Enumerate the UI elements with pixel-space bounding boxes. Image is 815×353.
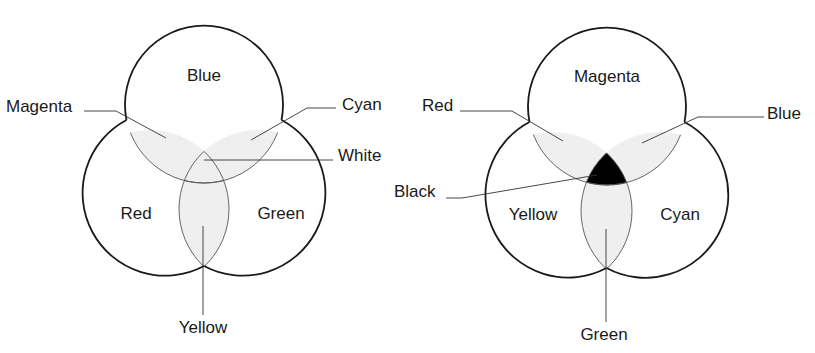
label-magenta-primary: Magenta [574, 67, 641, 86]
label-green: Green [257, 204, 304, 223]
label-yellow: Yellow [179, 318, 228, 337]
label-red: Red [120, 204, 151, 223]
label-red: Red [422, 96, 453, 115]
label-black: Black [394, 182, 436, 201]
label-yellow-primary: Yellow [509, 205, 558, 224]
subtractive-diagram: Magenta Yellow Cyan Red Blue Black Green [394, 27, 801, 344]
label-blue: Blue [187, 66, 221, 85]
label-white: White [338, 146, 381, 165]
color-mixing-diagrams: Blue Red Green Magenta Cyan White Yellow… [0, 0, 815, 353]
label-magenta: Magenta [6, 97, 73, 116]
label-blue: Blue [767, 104, 801, 123]
leader-black [446, 175, 597, 198]
label-cyan: Cyan [342, 95, 382, 114]
label-green: Green [580, 325, 627, 344]
additive-diagram: Blue Red Green Magenta Cyan White Yellow [6, 25, 382, 337]
label-cyan-primary: Cyan [660, 205, 700, 224]
